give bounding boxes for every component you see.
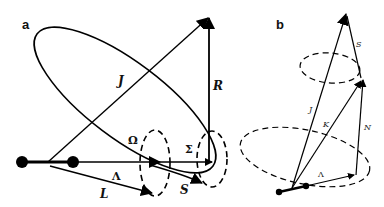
s-vector — [150, 165, 202, 183]
coupling-diagram: a J R Ω Σ Λ L S b — [0, 0, 384, 207]
label-j: J — [116, 74, 125, 88]
label-r: R — [212, 79, 223, 93]
panel-b-label: b — [276, 17, 284, 32]
label-sigma: Σ — [185, 143, 193, 156]
panel-b: b S J K N Λ — [235, 14, 375, 197]
label-s: S — [180, 183, 189, 197]
label-j-b: J — [307, 105, 313, 114]
nucleus-b-left — [276, 189, 282, 195]
label-lambda-b: Λ — [317, 170, 324, 179]
lambda-vector-b — [306, 175, 354, 186]
n-vector — [356, 80, 363, 175]
nucleus-left — [16, 156, 28, 168]
label-lambda: Λ — [111, 170, 121, 183]
label-s-b: S — [356, 40, 362, 49]
label-omega: Ω — [128, 134, 138, 147]
j-precession-ellipse — [14, 3, 235, 196]
label-n: N — [363, 123, 372, 132]
k-vector — [292, 81, 361, 188]
j-vector-b — [292, 14, 346, 188]
panel-a: a J R Ω Σ Λ L S — [14, 3, 235, 201]
n-precession-ellipse — [299, 50, 361, 85]
label-l: L — [99, 187, 108, 201]
panel-a-label: a — [22, 17, 30, 32]
label-k: K — [322, 120, 330, 129]
